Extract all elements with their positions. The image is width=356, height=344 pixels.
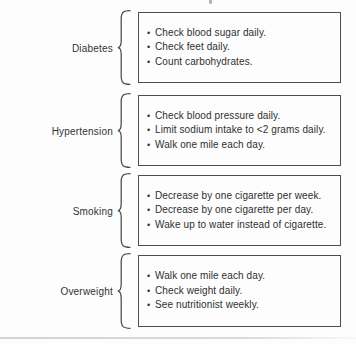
care-item-text: Walk one mile each day. xyxy=(155,138,265,153)
condition-label: Smoking xyxy=(73,205,113,216)
care-item: •Walk one mile each day. xyxy=(147,269,265,284)
bullet-icon: • xyxy=(147,218,153,233)
care-item-text: Check blood pressure daily. xyxy=(155,109,280,124)
brace-icon xyxy=(117,173,131,248)
bullet-icon: • xyxy=(147,298,153,313)
care-items-box: •Check blood sugar daily.•Check feet dai… xyxy=(138,12,341,83)
care-item: •Decrease by one cigarette per day. xyxy=(147,203,326,218)
care-items-list: •Walk one mile each day.•Check weight da… xyxy=(139,269,269,313)
bullet-icon: • xyxy=(147,284,153,299)
bullet-icon: • xyxy=(147,109,153,124)
care-item: •Wake up to water instead of cigarette. xyxy=(147,218,326,233)
cropped-text-artifact xyxy=(209,0,212,4)
care-item: •Decrease by one cigarette per week. xyxy=(147,189,326,204)
care-item-text: Check weight daily. xyxy=(155,284,242,299)
bullet-icon: • xyxy=(147,40,153,55)
care-item: •Check blood pressure daily. xyxy=(147,109,326,124)
care-item-text: Check feet daily. xyxy=(155,40,230,55)
bullet-icon: • xyxy=(147,123,153,138)
bullet-icon: • xyxy=(147,189,153,204)
care-item-text: Limit sodium intake to <2 grams daily. xyxy=(155,123,326,138)
care-items-list: •Check blood pressure daily.•Limit sodiu… xyxy=(139,109,330,153)
care-item: •Check weight daily. xyxy=(147,284,265,299)
care-item: •Limit sodium intake to <2 grams daily. xyxy=(147,123,326,138)
condition-label: Diabetes xyxy=(72,42,113,53)
care-items-box: •Walk one mile each day.•Check weight da… xyxy=(138,255,341,327)
care-items-box: •Decrease by one cigarette per week.•Dec… xyxy=(138,175,341,246)
brace-icon xyxy=(117,253,131,329)
condition-label: Hypertension xyxy=(52,125,113,136)
condition-section-diabetes: Diabetes •Check blood sugar daily.•Check… xyxy=(0,12,356,83)
condition-section-smoking: Smoking •Decrease by one cigarette per w… xyxy=(0,175,356,246)
bullet-icon: • xyxy=(147,26,153,41)
bottom-rule xyxy=(0,337,356,339)
care-item: •Walk one mile each day. xyxy=(147,138,326,153)
care-item-text: Check blood sugar daily. xyxy=(155,26,266,41)
bullet-icon: • xyxy=(147,138,153,153)
care-item: •Count carbohydrates. xyxy=(147,55,266,70)
care-item: •See nutritionist weekly. xyxy=(147,298,265,313)
care-item-text: Wake up to water instead of cigarette. xyxy=(155,218,326,233)
care-item: •Check feet daily. xyxy=(147,40,266,55)
care-items-box: •Check blood pressure daily.•Limit sodiu… xyxy=(138,95,341,166)
condition-label: Overweight xyxy=(60,286,113,297)
care-item: •Check blood sugar daily. xyxy=(147,26,266,41)
bullet-icon: • xyxy=(147,55,153,70)
bullet-icon: • xyxy=(147,269,153,284)
care-items-list: •Check blood sugar daily.•Check feet dai… xyxy=(139,26,270,70)
care-item-text: Decrease by one cigarette per day. xyxy=(155,203,313,218)
condition-section-hypertension: Hypertension •Check blood pressure daily… xyxy=(0,95,356,166)
care-item-text: See nutritionist weekly. xyxy=(155,298,259,313)
brace-icon xyxy=(117,93,131,168)
care-item-text: Count carbohydrates. xyxy=(155,55,253,70)
care-plan-diagram: Diabetes •Check blood sugar daily.•Check… xyxy=(0,0,356,344)
care-items-list: •Decrease by one cigarette per week.•Dec… xyxy=(139,189,330,233)
bullet-icon: • xyxy=(147,203,153,218)
brace-icon xyxy=(117,10,131,85)
care-item-text: Walk one mile each day. xyxy=(155,269,265,284)
condition-section-overweight: Overweight •Walk one mile each day.•Chec… xyxy=(0,255,356,327)
care-item-text: Decrease by one cigarette per week. xyxy=(155,189,321,204)
